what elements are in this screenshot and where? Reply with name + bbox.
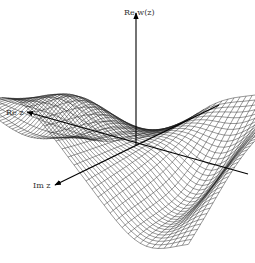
surface-plot	[0, 0, 255, 263]
im-z-axis	[55, 105, 219, 185]
axes	[27, 13, 248, 185]
re-w-axis-label: Re w(z)	[124, 9, 155, 17]
im-z-axis-label: Im z	[33, 182, 51, 190]
re-z-axis-label: Re z	[6, 109, 24, 117]
wireframe-mesh	[0, 93, 255, 249]
